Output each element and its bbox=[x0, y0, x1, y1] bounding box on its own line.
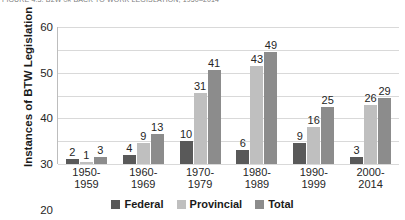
bar-federal[interactable] bbox=[236, 150, 249, 164]
bar-value-label: 9 bbox=[140, 130, 146, 142]
bar-total[interactable] bbox=[94, 157, 107, 164]
bar-provincial[interactable] bbox=[307, 127, 320, 164]
bar-slot: 41 bbox=[208, 27, 221, 164]
bar-value-label: 29 bbox=[378, 85, 390, 97]
x-tick-line: 2014 bbox=[342, 179, 399, 191]
x-tick-line: 1990- bbox=[285, 167, 342, 179]
bar-value-label: 3 bbox=[97, 144, 103, 156]
x-tick-line: 1950- bbox=[58, 167, 115, 179]
bar-value-label: 31 bbox=[194, 80, 206, 92]
bar-slot: 13 bbox=[151, 27, 164, 164]
x-tick-line: 1960- bbox=[115, 167, 172, 179]
x-tick-line: 1989 bbox=[228, 179, 285, 191]
legend-swatch-icon bbox=[255, 200, 264, 209]
legend-label: Total bbox=[268, 198, 293, 210]
figure-container: FIGURE 4.3: B2W or BACK TO WORK LEGISLAT… bbox=[0, 0, 405, 220]
y-axis-title: Instances of BTW Legislation bbox=[22, 17, 34, 167]
bar-slot: 4 bbox=[123, 27, 136, 164]
legend-label: Provincial bbox=[190, 198, 243, 210]
x-tick-line: 1980- bbox=[228, 167, 285, 179]
bar-provincial[interactable] bbox=[250, 66, 263, 164]
bar-total[interactable] bbox=[264, 52, 277, 164]
bar-total[interactable] bbox=[321, 107, 334, 164]
y-tick-label: 50 bbox=[40, 67, 53, 79]
y-tick-label: 40 bbox=[40, 112, 53, 124]
bar-value-label: 41 bbox=[208, 57, 220, 69]
bar-value-label: 4 bbox=[126, 142, 132, 154]
bar-provincial[interactable] bbox=[80, 162, 93, 164]
bar-slot: 26 bbox=[364, 27, 377, 164]
gridline: 0 bbox=[58, 164, 399, 165]
bar-slot: 3 bbox=[350, 27, 363, 164]
bar-provincial[interactable] bbox=[137, 143, 150, 164]
x-tick-label: 1950-1959 bbox=[58, 167, 115, 190]
bar-federal[interactable] bbox=[66, 159, 79, 164]
bar-value-label: 13 bbox=[151, 121, 163, 133]
bar-federal[interactable] bbox=[293, 143, 306, 164]
x-tick-line: 2000- bbox=[342, 167, 399, 179]
bar-value-label: 16 bbox=[308, 114, 320, 126]
bar-value-label: 26 bbox=[364, 92, 376, 104]
bar-value-label: 3 bbox=[353, 144, 359, 156]
bar-groups: 2134913103141643499162532629 bbox=[58, 27, 399, 164]
bar-federal[interactable] bbox=[180, 141, 193, 164]
x-tick-line: 1959 bbox=[58, 179, 115, 191]
bar-value-label: 1 bbox=[83, 149, 89, 161]
legend-item-provincial[interactable]: Provincial bbox=[177, 198, 243, 210]
bar-slot: 9 bbox=[137, 27, 150, 164]
legend-swatch-icon bbox=[111, 200, 120, 209]
x-tick-label: 1980-1989 bbox=[228, 167, 285, 190]
x-tick-line: 1999 bbox=[285, 179, 342, 191]
bar-group: 4913 bbox=[115, 27, 172, 164]
bar-total[interactable] bbox=[151, 134, 164, 164]
legend-swatch-icon bbox=[177, 200, 186, 209]
x-tick-line: 1979 bbox=[172, 179, 229, 191]
bar-slot: 3 bbox=[94, 27, 107, 164]
plot-area: 0102030405060 21349131031416434991625326… bbox=[58, 27, 399, 164]
bar-slot: 43 bbox=[250, 27, 263, 164]
bar-group: 32629 bbox=[342, 27, 399, 164]
bar-slot: 49 bbox=[264, 27, 277, 164]
bar-slot: 16 bbox=[307, 27, 320, 164]
x-tick-label: 2000-2014 bbox=[342, 167, 399, 190]
y-tick-label: 60 bbox=[40, 21, 53, 33]
bar-slot: 1 bbox=[80, 27, 93, 164]
x-tick-label: 1990-1999 bbox=[285, 167, 342, 190]
bar-slot: 29 bbox=[378, 27, 391, 164]
legend-label: Federal bbox=[124, 198, 163, 210]
x-tick-line: 1970- bbox=[172, 167, 229, 179]
bar-value-label: 25 bbox=[322, 94, 334, 106]
bar-slot: 31 bbox=[194, 27, 207, 164]
legend-item-federal[interactable]: Federal bbox=[111, 198, 163, 210]
bar-slot: 9 bbox=[293, 27, 306, 164]
bar-total[interactable] bbox=[208, 70, 221, 164]
bar-slot: 25 bbox=[321, 27, 334, 164]
bar-value-label: 10 bbox=[180, 128, 192, 140]
x-tick-line: 1969 bbox=[115, 179, 172, 191]
bar-group: 64349 bbox=[228, 27, 285, 164]
bar-slot: 2 bbox=[66, 27, 79, 164]
bar-slot: 10 bbox=[180, 27, 193, 164]
bar-group: 91625 bbox=[285, 27, 342, 164]
bar-provincial[interactable] bbox=[364, 105, 377, 164]
figure-caption: FIGURE 4.3: B2W or BACK TO WORK LEGISLAT… bbox=[2, 0, 219, 3]
bar-group: 213 bbox=[58, 27, 115, 164]
bar-federal[interactable] bbox=[350, 157, 363, 164]
bar-slot: 6 bbox=[236, 27, 249, 164]
bar-value-label: 49 bbox=[265, 39, 277, 51]
x-tick-label: 1960-1969 bbox=[115, 167, 172, 190]
bar-group: 103141 bbox=[172, 27, 229, 164]
bar-value-label: 6 bbox=[240, 137, 246, 149]
y-tick-label: 30 bbox=[40, 158, 53, 170]
bar-total[interactable] bbox=[378, 98, 391, 164]
bar-value-label: 2 bbox=[69, 146, 75, 158]
x-axis-labels: 1950-19591960-19691970-19791980-19891990… bbox=[58, 167, 399, 190]
legend-item-total[interactable]: Total bbox=[255, 198, 293, 210]
bar-value-label: 43 bbox=[251, 53, 263, 65]
bar-provincial[interactable] bbox=[194, 93, 207, 164]
x-tick-label: 1970-1979 bbox=[172, 167, 229, 190]
bar-value-label: 9 bbox=[297, 130, 303, 142]
bar-federal[interactable] bbox=[123, 155, 136, 164]
chart-legend: FederalProvincialTotal bbox=[0, 198, 405, 210]
